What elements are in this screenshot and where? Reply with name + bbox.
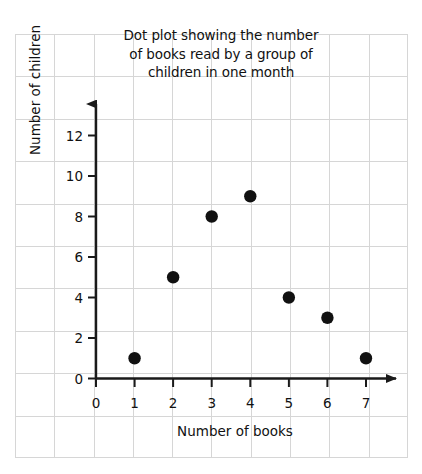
data-point-series	[128, 190, 372, 364]
data-point	[360, 352, 372, 364]
y-tick-label-10: 10	[55, 168, 83, 184]
y-tick-label-2: 2	[55, 330, 83, 346]
data-point	[283, 291, 295, 303]
data-point	[128, 352, 140, 364]
data-point	[321, 312, 333, 324]
y-tick-label-12: 12	[55, 128, 83, 144]
dot-plot-figure: Dot plot showing the number of books rea…	[0, 0, 422, 474]
x-tick-label-7: 7	[362, 395, 371, 411]
y-tick-label-4: 4	[55, 290, 83, 306]
x-tick-label-4: 4	[246, 395, 255, 411]
x-tick-label-3: 3	[207, 395, 216, 411]
x-axis-title: Number of books	[95, 423, 375, 439]
x-tick-label-1: 1	[130, 395, 139, 411]
data-point	[244, 190, 256, 202]
y-tick-label-6: 6	[55, 249, 83, 265]
x-tick-label-6: 6	[323, 395, 332, 411]
data-point	[206, 210, 218, 222]
x-tick-label-5: 5	[285, 395, 294, 411]
x-tick-label-0: 0	[92, 395, 101, 411]
y-tick-label-0: 0	[55, 371, 83, 387]
data-point	[167, 271, 179, 283]
y-tick-label-8: 8	[55, 209, 83, 225]
y-axis-title: Number of children	[27, 5, 43, 175]
x-tick-label-2: 2	[169, 395, 178, 411]
